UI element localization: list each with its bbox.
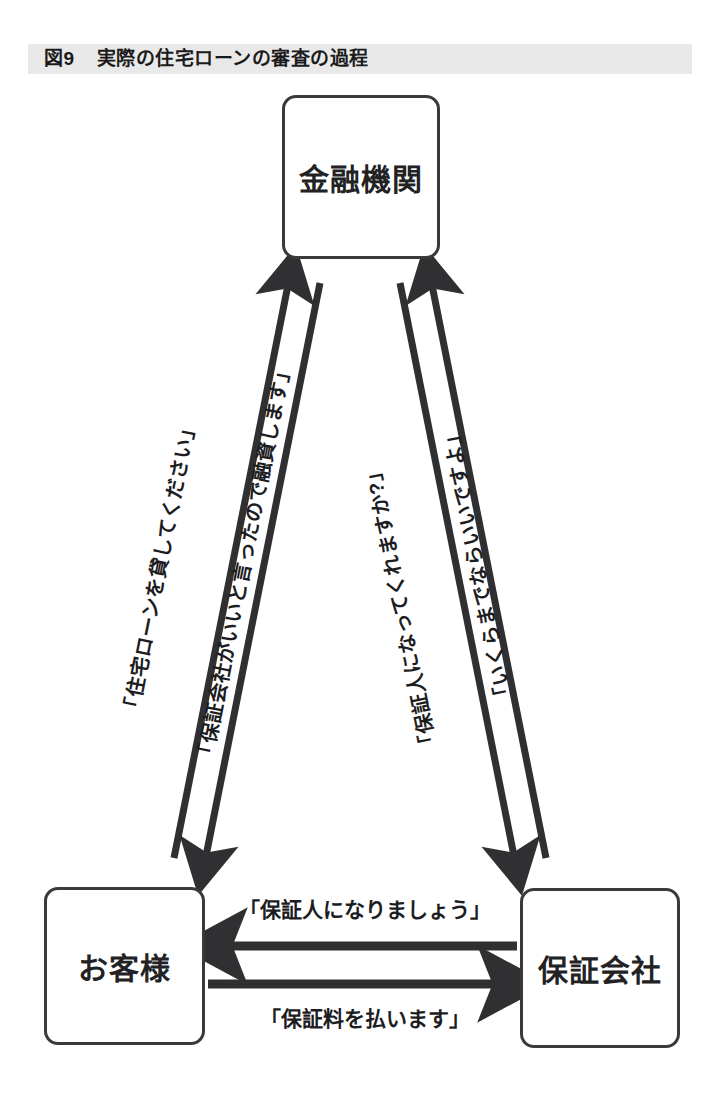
arrow-bank-to-guarantor xyxy=(400,283,514,856)
node-guarantor-label: 保証会社 xyxy=(538,946,662,990)
node-bank: 金融機関 xyxy=(282,95,440,259)
edge-label-customer-to-guarantor: 「保証料を払います」 xyxy=(215,1002,515,1032)
node-customer-label: お客様 xyxy=(78,944,171,988)
figure-page: 図9実際の住宅ローンの審査の過程 xyxy=(0,0,720,1114)
node-customer: お客様 xyxy=(44,887,205,1045)
node-guarantor: 保証会社 xyxy=(520,888,680,1048)
node-bank-label: 金融機関 xyxy=(299,155,423,199)
arrow-bank-to-customer xyxy=(206,283,320,856)
edge-label-guarantor-to-customer: 「保証人になりましょう」 xyxy=(215,893,515,923)
